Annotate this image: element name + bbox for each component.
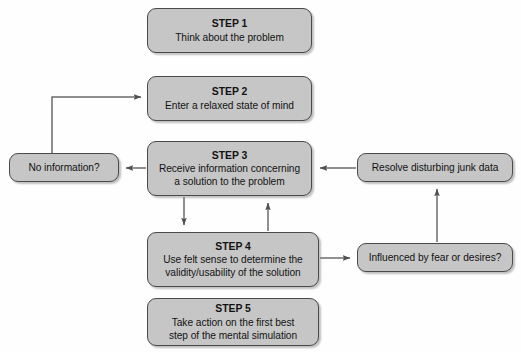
step-2-title: STEP 2: [212, 85, 247, 98]
step-4-title: STEP 4: [215, 240, 250, 253]
step-5-body: Take action on the first best step of th…: [169, 316, 297, 342]
node-step-4[interactable]: STEP 4 Use felt sense to determine the v…: [147, 232, 319, 287]
step-3-body: Receive information concerning a solutio…: [159, 162, 300, 188]
step-5-title: STEP 5: [215, 302, 250, 315]
connector-noinfo-to-step2: [52, 97, 141, 153]
flowchart-canvas: STEP 1 Think about the problem STEP 2 En…: [0, 0, 521, 352]
node-step-1[interactable]: STEP 1 Think about the problem: [147, 8, 312, 53]
node-no-information[interactable]: No information?: [9, 153, 119, 182]
node-influenced-by-fear[interactable]: Influenced by fear or desires?: [357, 243, 513, 272]
influenced-by-fear-label: Influenced by fear or desires?: [369, 251, 502, 264]
no-information-label: No information?: [28, 161, 99, 174]
node-step-5[interactable]: STEP 5 Take action on the first best ste…: [147, 298, 319, 346]
step-3-title: STEP 3: [212, 149, 247, 162]
step-1-title: STEP 1: [212, 17, 247, 30]
node-step-3[interactable]: STEP 3 Receive information concerning a …: [147, 141, 312, 196]
node-step-2[interactable]: STEP 2 Enter a relaxed state of mind: [147, 76, 312, 121]
step-2-body: Enter a relaxed state of mind: [165, 99, 294, 112]
step-4-body: Use felt sense to determine the validity…: [163, 253, 302, 279]
node-resolve-junk-data[interactable]: Resolve disturbing junk data: [357, 153, 513, 182]
resolve-junk-data-label: Resolve disturbing junk data: [372, 161, 499, 174]
step-1-body: Think about the problem: [175, 31, 284, 44]
